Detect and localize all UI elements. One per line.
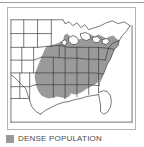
dense-population-swatch-icon: [6, 135, 14, 143]
dense-population-map-figure: DENSE POPULATION: [0, 0, 144, 147]
legend-label: DENSE POPULATION: [18, 134, 102, 143]
top-divider-rule: [0, 2, 144, 3]
map-frame: [7, 7, 136, 130]
map-legend: DENSE POPULATION: [6, 134, 102, 143]
united-states-map: [8, 8, 135, 129]
